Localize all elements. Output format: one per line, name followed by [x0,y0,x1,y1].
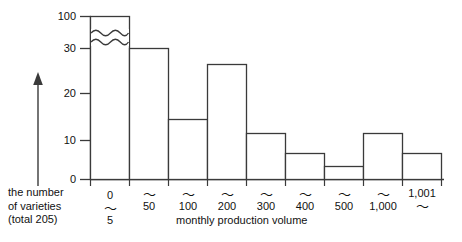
bar-bin-500 [325,167,364,180]
y-axis-title-line-3: (total 205) [8,213,64,227]
bar-bin-1000 [364,134,403,180]
y-tick-label-100: 100 [44,10,76,23]
histogram-figure: 100 30 20 10 0 0 〜 5 〜 50 〜 100 〜 200 〜 … [0,0,462,242]
y-tick-marks [80,17,91,180]
bar-bin-100 [169,120,208,180]
y-tick-label-0: 0 [44,173,76,186]
y-axis-title: the number of varieties (total 205) [8,186,64,227]
x-tick-squiggle-1001: 〜 [399,201,445,213]
bar-bin-200 [208,65,247,180]
histogram-bars [91,17,442,180]
y-tick-label-10: 10 [44,134,76,147]
bar-bin-50 [130,49,169,180]
y-axis-title-line-2: of varieties [8,200,64,214]
y-tick-label-30: 30 [44,42,76,55]
bar-bin-400 [286,154,325,180]
bar-bin-1001-up [403,154,442,180]
x-axis-title: monthly production volume [176,214,307,226]
y-axis-title-line-1: the number [8,186,64,200]
axis-break-indicator [91,29,129,46]
y-axis-arrow-icon [33,72,43,186]
x-tick-marks [91,180,442,187]
bar-bin-300 [247,134,286,180]
x-tick-label-5: 5 [87,214,133,227]
y-tick-label-20: 20 [44,87,76,100]
